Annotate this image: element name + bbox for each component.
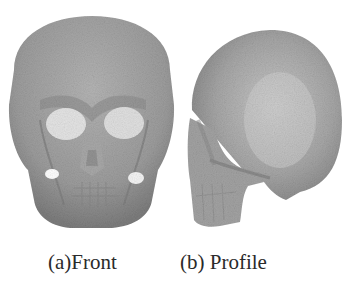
skull-profile-image (180, 0, 344, 240)
figure: (a)Front (b) Profile (0, 0, 344, 304)
panel-front-view (0, 0, 180, 240)
caption-profile: (b) Profile (180, 250, 267, 275)
skull-front-image (0, 0, 180, 240)
panel-profile-view (180, 0, 344, 240)
caption-front: (a)Front (48, 250, 117, 275)
